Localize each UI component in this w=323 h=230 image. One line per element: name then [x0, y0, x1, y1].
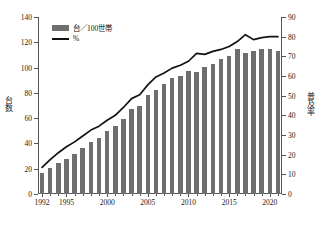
y-right-tick — [282, 56, 286, 57]
y-left-tick-label: 0 — [28, 190, 32, 199]
y-left-tick — [34, 42, 38, 43]
y-right-tick-label: 30 — [288, 131, 296, 140]
x-tick — [213, 194, 214, 196]
y-left-tick-label: 100 — [21, 63, 32, 72]
y-right-tick-label: 40 — [288, 111, 296, 120]
x-tick — [278, 194, 279, 196]
y-left-tick — [34, 17, 38, 18]
x-tick — [75, 194, 76, 196]
x-tick — [83, 194, 84, 196]
y-left-tick — [34, 93, 38, 94]
x-tick — [254, 194, 255, 196]
x-tick-label: 1995 — [59, 198, 74, 207]
x-tick-label: 2015 — [222, 198, 237, 207]
y-right-tick — [282, 135, 286, 136]
y-right-tick-label: 10 — [288, 170, 296, 179]
x-tick — [180, 194, 181, 196]
legend-line-swatch — [52, 38, 69, 40]
y-right-tick-label: 70 — [288, 52, 296, 61]
x-tick — [66, 194, 67, 197]
x-tick-label: 2000 — [100, 198, 115, 207]
legend-item-bar: 台／100世帯 — [52, 22, 112, 33]
y-right-tick — [282, 17, 286, 18]
y-left-tick — [34, 194, 38, 195]
y-left-tick-label: 20 — [25, 164, 33, 173]
y-right-tick — [282, 37, 286, 38]
x-tick — [107, 194, 108, 197]
x-tick — [140, 194, 141, 196]
y-right-tick — [282, 115, 286, 116]
line-path — [42, 35, 278, 168]
x-tick — [237, 194, 238, 196]
x-tick — [99, 194, 100, 196]
y-left-tick — [34, 68, 38, 69]
x-tick — [132, 194, 133, 196]
y-right-tick-label: 90 — [288, 13, 296, 22]
y-left-tick-label: 60 — [25, 114, 33, 123]
figure-chart: 台数 普及率 020406080100120140 01020304050607… — [0, 0, 323, 230]
y-right-tick-label: 0 — [288, 190, 292, 199]
x-tick — [221, 194, 222, 196]
y-right-tick — [282, 76, 286, 77]
y-left-tick-label: 120 — [21, 38, 32, 47]
x-tick — [50, 194, 51, 196]
x-tick — [58, 194, 59, 196]
x-tick — [148, 194, 149, 197]
y-left-tick — [34, 169, 38, 170]
y-left-tick — [34, 118, 38, 119]
x-tick — [205, 194, 206, 196]
x-tick — [229, 194, 230, 197]
y-right-tick — [282, 96, 286, 97]
y-right-tick — [282, 155, 286, 156]
x-tick — [156, 194, 157, 196]
y-right-tick — [282, 174, 286, 175]
x-tick — [123, 194, 124, 196]
x-tick — [91, 194, 92, 196]
x-tick — [172, 194, 173, 196]
x-tick-label: 2005 — [140, 198, 155, 207]
y-axis-right-title: 普及率 — [305, 92, 314, 116]
x-tick-label: 2010 — [181, 198, 196, 207]
x-tick — [262, 194, 263, 196]
y-axis-left-title: 台数 — [3, 96, 12, 112]
y-left-tick-label: 40 — [25, 139, 33, 148]
legend-bar-label: 台／100世帯 — [73, 22, 112, 33]
legend-bar-swatch — [52, 25, 69, 31]
y-left-tick-label: 140 — [21, 13, 32, 22]
x-tick-label: 1992 — [35, 198, 50, 207]
legend-item-line: % — [52, 33, 112, 44]
y-right-tick-label: 60 — [288, 72, 296, 81]
y-right-tick-label: 20 — [288, 150, 296, 159]
x-tick — [42, 194, 43, 197]
x-tick — [164, 194, 165, 196]
x-tick-label: 2020 — [262, 198, 277, 207]
y-right-tick-label: 50 — [288, 91, 296, 100]
y-right-tick — [282, 194, 286, 195]
legend: 台／100世帯 % — [52, 22, 112, 44]
y-left-tick — [34, 143, 38, 144]
legend-line-label: % — [73, 34, 79, 43]
x-tick — [245, 194, 246, 196]
x-tick — [197, 194, 198, 196]
y-right-tick-label: 80 — [288, 32, 296, 41]
y-left-tick-label: 80 — [25, 88, 33, 97]
x-tick — [270, 194, 271, 197]
x-tick — [188, 194, 189, 197]
x-tick — [115, 194, 116, 196]
